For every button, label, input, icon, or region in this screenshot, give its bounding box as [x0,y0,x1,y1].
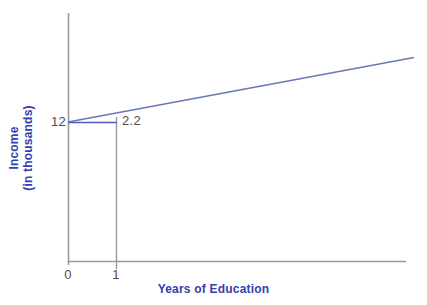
y-axis-title: Income (in thousands) [7,83,35,213]
x-tick-label-0: 0 [62,268,74,281]
y-axis-title-line2: (in thousands) [21,83,35,213]
plot-area [0,0,427,305]
x-tick-label-1: 1 [110,268,122,281]
regression-line [68,58,414,123]
y-axis-title-line1: Income [7,126,21,169]
x-axis-title: Years of Education [0,283,427,295]
slope-annotation-label: 2.2 [122,114,141,127]
y-axis-value-label: 12 [46,115,66,128]
chart-figure: 12 2.2 0 1 Years of Education Income (in… [0,0,427,305]
